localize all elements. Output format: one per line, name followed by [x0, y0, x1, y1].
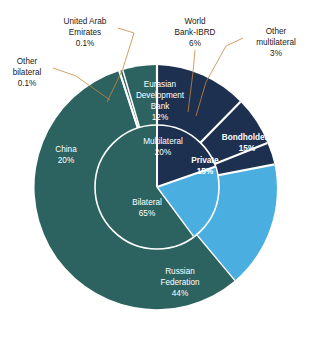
callout-uae-line2: Emirates	[69, 28, 101, 37]
label-china-name: China	[55, 145, 77, 154]
callout-other-multi-line1: Other	[266, 27, 287, 36]
callout-uae-line1: United Arab	[64, 17, 107, 26]
label-china-value: 20%	[58, 156, 74, 165]
callout-other-bilateral-line1: Other	[17, 57, 38, 66]
label-private-value: 15%	[197, 167, 214, 176]
callout-world-bank-line1: World	[184, 17, 206, 26]
label-multilateral-name: Multilateral	[143, 137, 183, 146]
label-russia-line2: Federation	[160, 278, 200, 287]
label-eurasian-line3: Bank	[151, 102, 171, 111]
label-bilateral-name: Bilateral	[132, 198, 162, 207]
label-russia-line1: Russian	[165, 267, 195, 276]
callout-other-bilateral-value: 0.1%	[18, 79, 37, 88]
label-bondholders-name: Bondholders	[222, 133, 273, 142]
callout-other-multi-value: 3%	[270, 49, 282, 58]
nested-pie-chart: Eurasian Development Bank 12% Multilater…	[0, 0, 314, 347]
callout-other-multi-line2: multilateral	[256, 38, 296, 47]
callout-world-bank-value: 6%	[189, 39, 201, 48]
label-private-name: Private	[191, 156, 219, 165]
callout-uae-value: 0.1%	[76, 39, 95, 48]
label-bilateral-value: 65%	[139, 209, 155, 218]
label-multilateral-value: 20%	[155, 148, 171, 157]
label-bondholders-value: 15%	[239, 144, 256, 153]
label-eurasian-value: 12%	[152, 113, 168, 122]
chart-canvas: Eurasian Development Bank 12% Multilater…	[0, 0, 314, 347]
callout-other-bilateral-line2: bilateral	[13, 68, 42, 77]
label-russia-value: 44%	[172, 289, 188, 298]
callout-world-bank-line2: Bank-IBRD	[175, 28, 216, 37]
label-eurasian-line2: Development	[136, 91, 185, 100]
label-eurasian-line1: Eurasian	[144, 80, 177, 89]
